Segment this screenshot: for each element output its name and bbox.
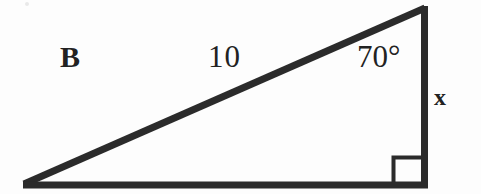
unknown-side-label-x: x bbox=[434, 85, 446, 109]
angle-measure-label: 70° bbox=[357, 41, 400, 72]
triangle-diagram-canvas: B 10 70° x bbox=[0, 0, 481, 194]
triangle-shape-group bbox=[0, 0, 481, 194]
scan-artifact-speck bbox=[25, 2, 29, 6]
hypotenuse-side-line bbox=[24, 8, 425, 184]
hypotenuse-length-label: 10 bbox=[208, 41, 241, 72]
right-angle-square-icon bbox=[394, 158, 422, 184]
vertex-label-b: B bbox=[60, 42, 80, 72]
